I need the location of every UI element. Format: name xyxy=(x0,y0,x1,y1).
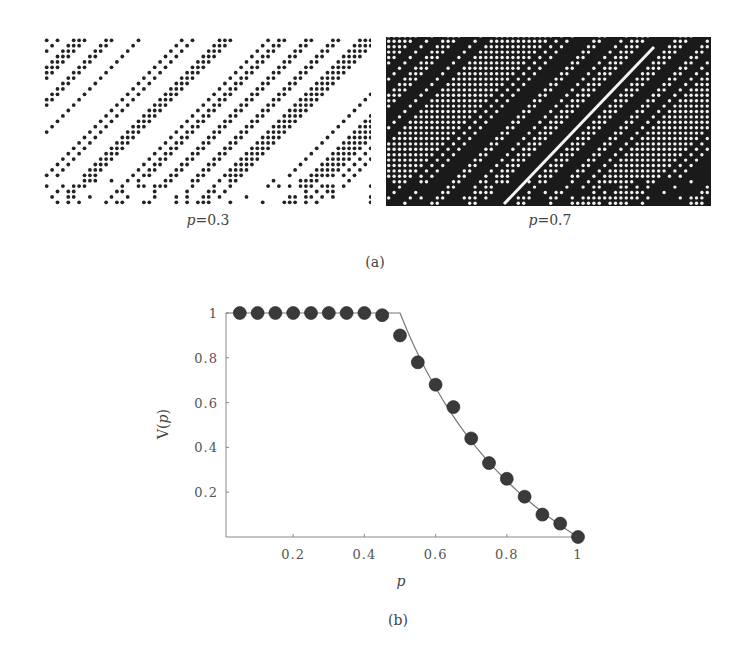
data-point xyxy=(447,401,460,414)
data-point xyxy=(340,307,353,320)
data-point xyxy=(358,307,371,320)
data-point xyxy=(500,472,513,485)
data-point xyxy=(376,309,389,322)
tick-labels: 0.20.40.60.810.20.40.60.81 xyxy=(194,306,582,562)
x-tick-label: 1 xyxy=(573,547,582,562)
data-point xyxy=(536,508,549,521)
data-point xyxy=(483,457,496,470)
data-point xyxy=(394,329,407,342)
data-point xyxy=(287,307,300,320)
data-point xyxy=(269,307,282,320)
data-point xyxy=(305,307,318,320)
y-tick-label: 1 xyxy=(209,306,218,321)
data-point xyxy=(465,432,478,445)
data-point xyxy=(251,307,264,320)
data-point xyxy=(233,307,246,320)
data-point xyxy=(572,531,585,544)
x-tick-label: 0.8 xyxy=(495,547,519,562)
data-point xyxy=(518,490,531,503)
figure-b-caption: (b) xyxy=(368,612,428,628)
x-tick-label: 0.4 xyxy=(353,547,377,562)
x-tick-label: 0.6 xyxy=(424,547,448,562)
data-markers xyxy=(233,307,584,544)
data-point xyxy=(322,307,335,320)
y-axis-title: V(p) xyxy=(155,409,171,440)
data-point xyxy=(429,378,442,391)
data-point xyxy=(411,356,424,369)
x-axis-title: p xyxy=(397,573,406,589)
y-tick-label: 0.8 xyxy=(194,351,218,366)
y-tick-label: 0.4 xyxy=(194,440,218,455)
value-vs-p-chart: 0.20.40.60.810.20.40.60.81 p V(p) xyxy=(0,0,736,653)
y-tick-label: 0.2 xyxy=(194,485,218,500)
x-tick-label: 0.2 xyxy=(281,547,305,562)
y-tick-label: 0.6 xyxy=(194,396,218,411)
data-point xyxy=(554,517,567,530)
